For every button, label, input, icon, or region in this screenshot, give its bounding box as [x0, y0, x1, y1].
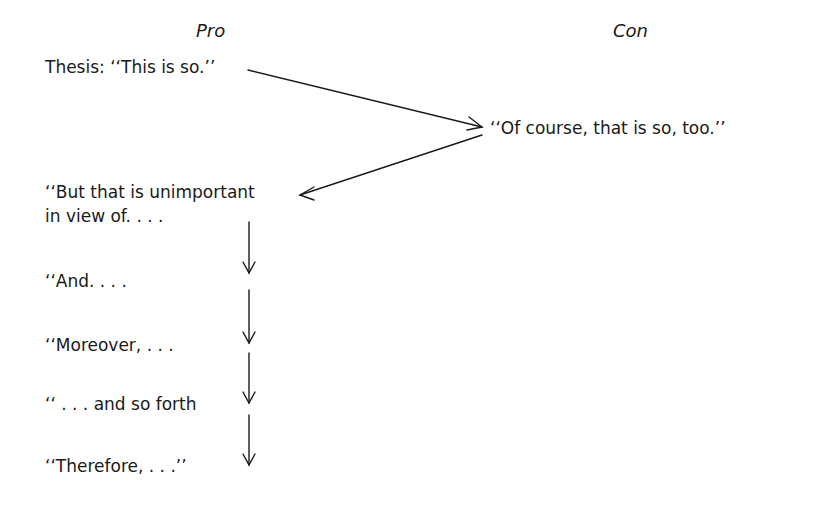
- flow-arrows: [0, 0, 830, 509]
- arrow-concession-to-rebuttal-icon: [300, 135, 482, 200]
- arrow-down-2-icon: [243, 290, 255, 343]
- arrow-thesis-to-concession-icon: [248, 70, 482, 130]
- arrow-down-4-icon: [243, 415, 255, 465]
- arrow-down-1-icon: [243, 222, 255, 273]
- arrow-down-3-icon: [243, 353, 255, 403]
